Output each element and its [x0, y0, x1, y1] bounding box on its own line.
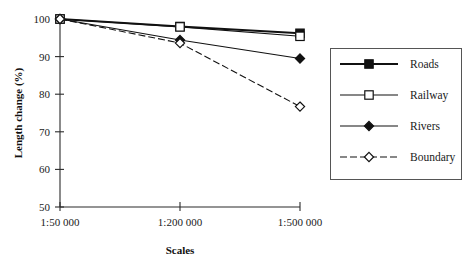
y-tick-label-50: 50: [39, 201, 51, 213]
legend: RoadsRailwayRiversBoundary: [331, 49, 462, 180]
y-axis: 100 90 80 70 60 50 Length change (%): [12, 13, 64, 213]
legend-label-railway: Railway: [410, 89, 449, 102]
y-tick-label-80: 80: [39, 88, 51, 100]
x-axis-title: Scales: [166, 244, 195, 256]
data-point-railway-2: [296, 32, 304, 40]
legend-label-rivers: Rivers: [410, 120, 441, 132]
line-chart: 100 90 80 70 60 50 Length change (%) 1:5…: [0, 0, 476, 269]
chart-figure: 100 90 80 70 60 50 Length change (%) 1:5…: [0, 0, 476, 269]
x-tick-label-3: 1:500 000: [278, 216, 323, 228]
x-tick-label-1: 1:50 000: [41, 216, 80, 228]
legend-marker-railway: [365, 91, 373, 99]
x-axis: 1:50 000 1:200 000 1:500 000 Scales: [41, 202, 323, 256]
y-axis-title: Length change (%): [12, 67, 25, 158]
x-tick-label-2: 1:200 000: [158, 216, 203, 228]
data-point-boundary-2: [295, 102, 304, 111]
legend-marker-roads: [365, 60, 373, 68]
data-point-rivers-2: [295, 54, 304, 63]
y-tick-label-70: 70: [39, 126, 51, 138]
legend-marker-boundary: [364, 152, 373, 161]
legend-entries: RoadsRailwayRiversBoundary: [340, 58, 456, 164]
y-tick-label-100: 100: [34, 13, 51, 25]
data-point-railway-1: [176, 23, 184, 31]
legend-label-roads: Roads: [410, 58, 439, 70]
legend-item-rivers: Rivers: [340, 120, 441, 132]
y-tick-label-90: 90: [39, 51, 51, 63]
data-series-layer: [55, 14, 304, 111]
legend-marker-rivers: [364, 121, 373, 130]
legend-item-railway: Railway: [340, 89, 449, 102]
legend-item-boundary: Boundary: [340, 151, 456, 164]
legend-item-roads: Roads: [340, 58, 439, 70]
y-tick-label-60: 60: [39, 163, 51, 175]
legend-label-boundary: Boundary: [410, 151, 456, 164]
